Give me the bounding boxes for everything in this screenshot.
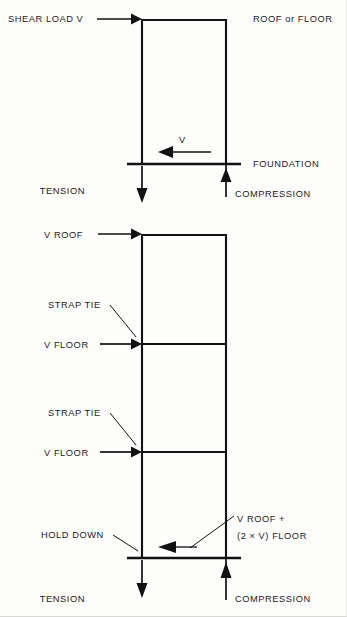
leader-line-icon-hold-down	[113, 535, 142, 557]
leader-line-icon-strap-tie-upper	[110, 305, 142, 343]
tension-label-single: TENSION	[40, 186, 85, 196]
v-reaction-tag: V	[179, 135, 186, 145]
cumulative-shear-label-line2: (2 × V) FLOOR	[237, 531, 307, 541]
compression-label-single: COMPRESSION	[235, 189, 311, 199]
arrow-up-icon-compression-single	[221, 164, 232, 197]
strap-tie-label-lower: STRAP TIE	[48, 408, 101, 418]
tension-label-multi: TENSION	[40, 594, 85, 604]
hold-down-label: HOLD DOWN	[41, 530, 104, 540]
arrow-left-icon-cumulative-shear	[158, 541, 197, 553]
leader-line-icon-cumulative-shear	[190, 516, 234, 548]
arrow-right-icon-v-roof	[98, 229, 142, 240]
foundation-label: FOUNDATION	[253, 159, 319, 169]
strap-tie-label-upper: STRAP TIE	[48, 300, 101, 310]
arrow-down-icon-tension-single	[137, 166, 148, 203]
roof-or-floor-label: ROOF or FLOOR	[253, 14, 332, 24]
diagram-canvas: SHEAR LOAD V ROOF or FLOOR V FOUNDATION …	[0, 0, 347, 617]
shear-wall-figure: SHEAR LOAD V ROOF or FLOOR V FOUNDATION …	[0, 0, 347, 617]
arrow-left-icon-v-reaction	[158, 146, 211, 158]
multi-story-diagram: V ROOF STRAP TIE V FLOOR STRAP TIE	[40, 229, 311, 605]
wall-panel-multi	[141, 234, 227, 558]
arrow-down-icon-tension-multi	[137, 560, 148, 598]
cumulative-shear-label-line1: V ROOF +	[237, 514, 285, 524]
arrow-right-icon-shear-load	[97, 14, 142, 25]
arrow-right-icon-v-floor-upper	[100, 339, 142, 350]
v-roof-label: V ROOF	[44, 230, 83, 240]
leader-line-icon-strap-tie-lower	[110, 413, 142, 451]
arrow-up-icon-compression-multi	[221, 558, 232, 600]
v-floor-label-lower: V FLOOR	[44, 448, 89, 458]
v-floor-label-upper: V FLOOR	[44, 340, 89, 350]
arrow-right-icon-v-floor-lower	[100, 447, 142, 458]
single-story-diagram: SHEAR LOAD V ROOF or FLOOR V FOUNDATION …	[8, 14, 332, 204]
compression-label-multi: COMPRESSION	[235, 594, 311, 604]
shear-load-label: SHEAR LOAD V	[8, 14, 84, 24]
